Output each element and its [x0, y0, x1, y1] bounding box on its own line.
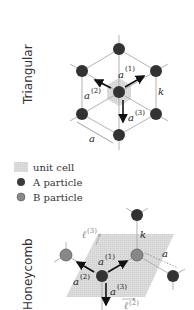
vector-a1-label: a — [98, 256, 104, 267]
spring-constant-label: k — [140, 229, 146, 240]
a-particle — [113, 129, 125, 141]
legend: unit cell A particle B particle — [14, 162, 83, 203]
legend-a-particle-label: A particle — [32, 177, 83, 188]
distance-label: a — [162, 248, 168, 259]
legend-b-particle-label: B particle — [33, 192, 83, 203]
lattice-vector-l3-label: ℓ — [82, 229, 86, 240]
b-particle — [60, 249, 72, 261]
svg-text:(2): (2) — [129, 299, 139, 307]
distance-label: a — [89, 133, 95, 144]
a-particle — [113, 43, 125, 55]
svg-text:(1): (1) — [105, 253, 115, 261]
vector-a2-label: a — [84, 90, 90, 101]
a-particle — [76, 65, 88, 77]
triangular-label: Triangular — [21, 44, 35, 105]
honeycomb-panel: Honeycomb — [21, 208, 185, 310]
b-particle — [131, 249, 143, 261]
a-particle — [167, 270, 179, 282]
svg-text:(3): (3) — [87, 227, 97, 235]
svg-text:(3): (3) — [117, 283, 127, 291]
distance-marker — [77, 122, 113, 143]
svg-text:(2): (2) — [80, 273, 90, 281]
a-particle — [113, 86, 125, 98]
triangular-panel: Triangular a (1) a (2) — [21, 35, 168, 150]
spring-constant-label: k — [158, 86, 164, 97]
vector-a2-label: a — [73, 276, 79, 287]
vector-a1-label: a — [118, 69, 124, 80]
lattice-vector-l2-label: ℓ — [124, 300, 128, 310]
svg-text:(2): (2) — [91, 87, 101, 95]
vector-a3-label: a — [128, 112, 134, 123]
a-particle — [76, 108, 88, 120]
legend-unit-cell-swatch — [14, 162, 28, 172]
svg-text:(1): (1) — [125, 65, 135, 73]
svg-text:(3): (3) — [135, 109, 145, 117]
legend-a-particle-swatch — [17, 178, 25, 186]
a-particle — [131, 209, 143, 221]
legend-unit-cell-label: unit cell — [33, 162, 74, 173]
a-particle — [150, 108, 162, 120]
legend-b-particle-swatch — [17, 193, 25, 201]
honeycomb-label: Honeycomb — [21, 238, 35, 310]
a-particle — [96, 270, 108, 282]
a-particle — [150, 65, 162, 77]
lattice-diagram: Triangular a (1) a (2) — [0, 0, 194, 310]
vector-a1-arrow — [125, 76, 144, 87]
vector-a3-label: a — [110, 286, 116, 297]
